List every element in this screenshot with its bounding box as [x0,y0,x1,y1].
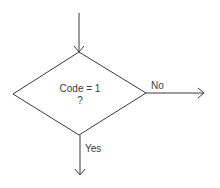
yes-branch-arrow [75,135,85,175]
decision-text-line2: ? [77,95,83,106]
decision-text-line1: Code = 1 [60,83,101,94]
flowchart-canvas: Code = 1 ? No Yes [0,0,220,188]
no-label: No [151,80,164,91]
yes-label: Yes [85,143,101,154]
incoming-arrow [74,13,84,52]
